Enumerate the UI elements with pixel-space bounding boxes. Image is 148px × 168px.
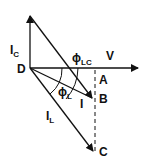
label-il: IL	[46, 110, 54, 125]
il-phasor	[30, 68, 93, 151]
label-d: D	[17, 63, 26, 75]
label-a: A	[99, 74, 108, 86]
label-ic: IC	[10, 44, 19, 59]
label-v: V	[106, 50, 114, 62]
label-i: I	[80, 98, 83, 110]
label-phi-lc: ϕLC	[72, 52, 92, 67]
label-phi-l: ϕL	[58, 86, 72, 101]
label-b: B	[99, 93, 108, 105]
label-c: C	[99, 146, 108, 158]
phasor-diagram	[0, 0, 148, 168]
